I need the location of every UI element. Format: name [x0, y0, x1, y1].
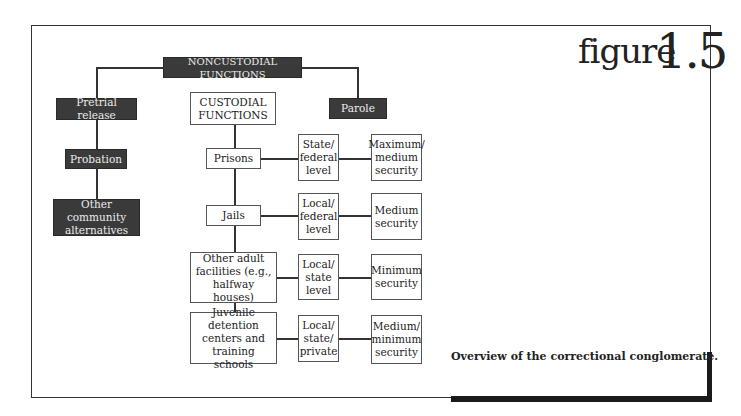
parole-box: Parole — [329, 98, 387, 119]
connector-line — [357, 67, 359, 98]
connector-line — [302, 67, 358, 69]
other-adult-level-box: Local/ state level — [298, 254, 339, 300]
juvenile-security-box: Medium/ minimum security — [371, 315, 422, 364]
noncustodial-functions-box: NONCUSTODIAL FUNCTIONS — [163, 57, 302, 78]
custodial-functions-box: CUSTODIAL FUNCTIONS — [190, 92, 276, 125]
prisons-level-box: State/ federal level — [298, 134, 339, 181]
probation-box: Probation — [65, 149, 127, 169]
prisons-box: Prisons — [206, 148, 261, 169]
connector-line — [96, 67, 163, 69]
frame-shadow-bottom — [451, 396, 712, 402]
connector-line — [96, 67, 98, 98]
jails-level-box: Local/ federal level — [298, 193, 339, 240]
other-adult-facilities-box: Other adult facilities (e.g., halfway ho… — [190, 252, 277, 303]
jails-box: Jails — [206, 205, 261, 226]
juvenile-detention-box: Juvenile detention centers and training … — [190, 312, 277, 364]
other-adult-security-box: Minimum security — [371, 254, 422, 300]
prisons-security-box: Maximum/ medium security — [371, 134, 422, 181]
figure-caption: Overview of the correctional conglomerat… — [451, 350, 718, 363]
pretrial-release-box: Pretrial release — [56, 98, 137, 120]
other-community-alternatives-box: Other community alternatives — [53, 199, 140, 236]
figure-number: 1.5 — [656, 24, 726, 78]
jails-security-box: Medium security — [371, 193, 422, 240]
juvenile-level-box: Local/ state/ private — [298, 315, 339, 362]
